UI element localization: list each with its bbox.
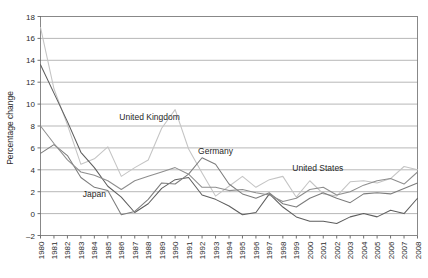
x-tick-label: 2005 [373,241,382,259]
line-chart: –2024681012141618 1980198119821983198419… [0,0,428,278]
x-tick-label: 1992 [198,241,207,259]
x-tick-label: 2002 [333,241,342,259]
x-tick-marks [41,236,418,239]
x-tick-label: 1994 [225,241,234,259]
y-axis-title-text: Percentage change [5,91,15,165]
gridlines [41,38,418,213]
series-line-japan [41,65,418,224]
x-tick-label: 1986 [117,241,126,259]
x-tick-label: 1998 [279,241,288,259]
x-tick-label: 1993 [212,241,221,259]
x-tick-label: 1981 [50,241,59,259]
x-tick-labels: 1980198119821983198419851986198719881989… [37,241,423,259]
x-tick-label: 1999 [292,241,301,259]
x-tick-label: 1980 [37,241,46,259]
x-tick-label: 1988 [144,241,153,259]
x-tick-label: 1987 [131,241,140,259]
series-labels: United KingdomJapanGermanyUnited States [83,112,344,199]
x-tick-label: 1995 [238,241,247,259]
series-label-united-states: United States [292,163,343,173]
x-tick-label: 1983 [77,241,86,259]
x-tick-label: 2000 [306,241,315,259]
x-tick-label: 2008 [414,241,423,259]
y-tick-label: 0 [31,210,36,219]
y-tick-labels: –2024681012141618 [26,13,35,241]
x-tick-label: 2007 [400,241,409,259]
x-tick-label: 1989 [158,241,167,259]
x-tick-label: 1996 [252,241,261,259]
y-tick-label: 2 [31,188,36,197]
x-tick-label: 1990 [171,241,180,259]
x-tick-label: 1982 [63,241,72,259]
y-axis-title: Percentage change [5,91,15,165]
chart-container: –2024681012141618 1980198119821983198419… [0,0,428,278]
x-tick-label: 2003 [346,241,355,259]
y-tick-label: 16 [26,34,35,43]
y-tick-label: 14 [26,56,35,65]
x-tick-label: 2004 [360,241,369,259]
y-tick-label: 8 [31,122,36,131]
y-tick-label: 10 [26,100,35,109]
x-tick-label: 2006 [387,241,396,259]
x-tick-label: 1997 [265,241,274,259]
x-tick-label: 1991 [185,241,194,259]
x-tick-label: 2001 [319,241,328,259]
series-label-united-kingdom: United Kingdom [119,112,179,122]
series-label-germany: Germany [198,146,234,156]
y-tick-label: 4 [31,166,36,175]
x-tick-label: 1984 [90,241,99,259]
y-tick-label: 6 [31,144,36,153]
y-tick-label: 12 [26,78,35,87]
x-tick-label: 1985 [104,241,113,259]
series-label-japan: Japan [83,189,106,199]
y-tick-label: –2 [26,232,35,241]
y-tick-label: 18 [26,13,35,22]
